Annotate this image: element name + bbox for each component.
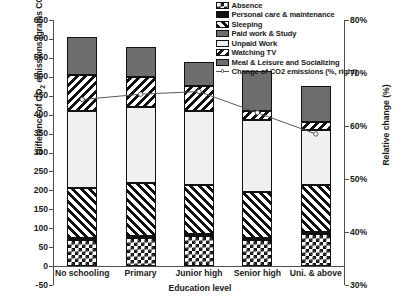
stacked-bar	[67, 20, 97, 285]
y-tick-label-left: 650	[34, 16, 48, 25]
legend-label: Unpaid Work	[232, 39, 278, 48]
y-tick-label-left: 300	[34, 148, 48, 157]
bar-segment	[301, 86, 331, 122]
bar-segment	[301, 122, 331, 130]
y-tick-label-left: 400	[34, 110, 48, 119]
legend-label: Paid work & Study	[232, 29, 297, 38]
y-tick-right	[345, 179, 349, 180]
bar-segment	[126, 47, 156, 77]
legend-swatch-icon	[216, 2, 229, 9]
legend-item[interactable]: Meal & Leisure and Socializing	[216, 58, 357, 67]
y-tick-label-right: 30%	[350, 281, 367, 290]
legend-swatch-icon	[216, 40, 229, 47]
y-tick-label-right: 40%	[350, 228, 367, 237]
legend-label: Sleeping	[232, 20, 263, 29]
legend-item[interactable]: Sleeping	[216, 20, 357, 29]
bar-segment	[126, 236, 156, 238]
legend-label: Absence	[232, 1, 263, 10]
bar-segment	[184, 86, 214, 111]
bar-segment	[301, 130, 331, 185]
y-tick-right	[345, 285, 349, 286]
bar-segment	[242, 238, 272, 240]
y-tick-label-left: 450	[34, 91, 48, 100]
y-tick-label-left: 550	[34, 53, 48, 62]
legend-item[interactable]: Personal care & maintenance	[216, 10, 357, 19]
legend-label: Change of CO2 emissions (%, right)	[232, 67, 358, 76]
chart-figure: Difference of CO2 emissions (grams CO2/d…	[0, 0, 400, 305]
legend-swatch-icon	[216, 30, 229, 37]
y-tick-label-left: 600	[34, 34, 48, 43]
y-tick-right	[345, 126, 349, 127]
legend-label: Watching TV	[232, 48, 277, 57]
y-axis-left-ticks: -500501001502002503003504004505005506006…	[8, 0, 48, 305]
legend-item[interactable]: Paid work & Study	[216, 29, 357, 38]
bar-segment	[184, 185, 214, 234]
legend-swatch-icon	[216, 49, 229, 56]
bar-segment	[126, 107, 156, 183]
y-tick-label-left: -50	[36, 281, 48, 290]
bar-segment	[67, 238, 97, 240]
y-tick-label-left: 50	[38, 243, 48, 252]
stacked-bar	[126, 20, 156, 285]
bar-segment	[126, 183, 156, 236]
y-tick-right	[345, 232, 349, 233]
legend-item[interactable]: Unpaid Work	[216, 39, 357, 48]
y-tick-label-right: 50%	[350, 175, 367, 184]
bar-segment	[242, 192, 272, 237]
legend-swatch-icon	[216, 59, 229, 66]
bar-segment	[301, 232, 331, 234]
y-tick-label-left: 350	[34, 129, 48, 138]
legend-label: Meal & Leisure and Socializing	[232, 58, 340, 67]
bar-segment	[67, 75, 97, 111]
bar-segment	[242, 240, 272, 267]
y-tick-label-left: 250	[34, 167, 48, 176]
bar-segment	[184, 234, 214, 236]
legend-item[interactable]: Watching TV	[216, 48, 357, 57]
y-tick-left	[49, 285, 53, 286]
bar-segment	[242, 71, 272, 111]
legend-swatch-icon	[216, 21, 229, 28]
bar-segment	[242, 120, 272, 192]
y-tick-label-left: 200	[34, 186, 48, 195]
bar-segment	[67, 188, 97, 237]
legend-item-line-series[interactable]: Change of CO2 emissions (%, right)	[216, 67, 357, 76]
x-tick-label: Uni. & above	[276, 268, 356, 278]
stacked-bar	[184, 20, 214, 285]
bar-segment	[242, 111, 272, 120]
bar-segment	[126, 238, 156, 266]
bar-segment	[184, 62, 214, 87]
bar-segment	[67, 111, 97, 189]
bar-segment	[184, 236, 214, 266]
legend-item[interactable]: Absence	[216, 1, 357, 10]
legend-label: Personal care & maintenance	[232, 10, 335, 19]
bar-segment	[126, 77, 156, 107]
bar-segment	[301, 185, 331, 232]
bar-segment	[67, 240, 97, 267]
bar-segment	[301, 234, 331, 266]
y-tick-label-right: 60%	[350, 122, 367, 131]
bar-segment	[184, 111, 214, 185]
y-tick-label-left: 500	[34, 72, 48, 81]
bar-segment	[67, 37, 97, 75]
legend-line-marker-icon	[216, 68, 229, 75]
chart-legend: AbsencePersonal care & maintenanceSleepi…	[216, 1, 357, 77]
y-tick-label-left: 150	[34, 205, 48, 214]
y-tick-label-left: 100	[34, 224, 48, 233]
legend-swatch-icon	[216, 11, 229, 18]
